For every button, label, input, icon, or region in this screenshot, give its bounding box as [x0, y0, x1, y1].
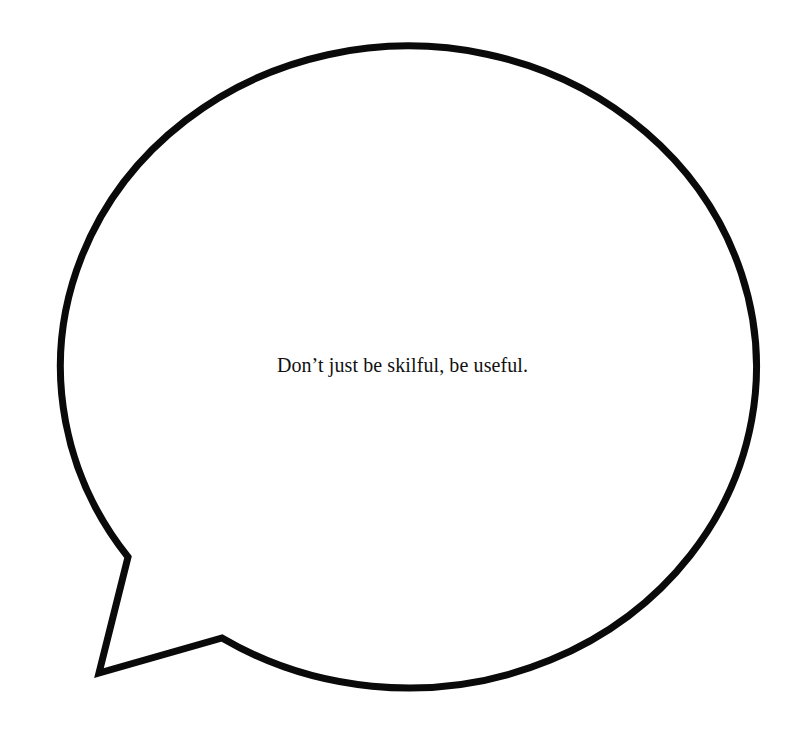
quote-text: Don’t just be skilful, be useful.	[0, 352, 805, 378]
